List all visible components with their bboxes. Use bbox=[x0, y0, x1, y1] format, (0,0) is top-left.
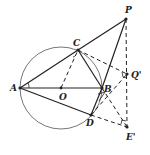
angle-mark-c bbox=[73, 56, 75, 57]
point-e bbox=[125, 125, 128, 128]
point-o bbox=[60, 87, 63, 90]
segment-bp bbox=[102, 19, 126, 88]
label-o: O bbox=[59, 92, 67, 102]
label-b: B bbox=[103, 84, 112, 94]
geometry-figure: P C Q' A O B D E' bbox=[0, 0, 150, 155]
segment-bd bbox=[91, 88, 102, 115]
label-d: D bbox=[85, 118, 94, 128]
point-q bbox=[125, 72, 128, 75]
label-p: P bbox=[124, 5, 132, 15]
label-e: E' bbox=[125, 132, 136, 142]
segment-ac bbox=[20, 50, 78, 88]
label-a: A bbox=[9, 83, 17, 93]
segment-cb bbox=[78, 50, 102, 88]
point-a bbox=[18, 86, 21, 89]
segment-cp bbox=[78, 19, 126, 50]
point-p bbox=[124, 17, 127, 20]
point-d bbox=[89, 113, 92, 116]
label-c: C bbox=[73, 38, 81, 48]
angle-mark-a bbox=[28, 83, 29, 88]
point-c bbox=[76, 48, 79, 51]
label-q: Q' bbox=[131, 70, 142, 80]
segment-ad bbox=[20, 88, 91, 115]
